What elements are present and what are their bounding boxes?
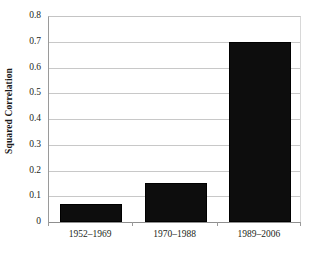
bar [60,204,122,222]
y-axis-title: Squared Correlation [0,0,18,222]
x-axis-tick-mark [48,222,49,226]
bar [229,42,291,222]
bar-chart-figure: Squared Correlation 00.10.20.30.40.50.60… [0,0,311,255]
plot-area [48,16,301,222]
bars-group [49,17,300,222]
y-axis-tick-label: 0.1 [29,192,41,202]
y-axis-tick-label: 0 [36,217,41,227]
x-axis-tick-label: 1970–1988 [153,229,196,239]
x-axis-tick-mark [217,222,218,226]
bar [145,183,207,222]
y-axis-tick-labels: 00.10.20.30.40.50.60.70.8 [18,16,45,222]
x-axis-tick-labels: 1952–19691970–19881989–2006 [48,229,301,249]
x-axis-tick-mark [132,222,133,226]
x-axis-tick-mark [300,222,301,226]
y-axis-tick-label: 0.3 [29,140,41,150]
y-axis-tick-label: 0.7 [29,37,41,47]
x-axis-tick-label: 1952–1969 [69,229,112,239]
y-axis-tick-label: 0.2 [29,166,41,176]
y-axis-tick-label: 0.4 [29,114,41,124]
x-axis-ticks [48,222,301,227]
y-axis-title-label: Squared Correlation [4,68,14,154]
y-axis-tick-label: 0.8 [29,11,41,21]
y-axis-tick-label: 0.6 [29,63,41,73]
x-axis-tick-label: 1989–2006 [237,229,280,239]
y-axis-tick-label: 0.5 [29,89,41,99]
